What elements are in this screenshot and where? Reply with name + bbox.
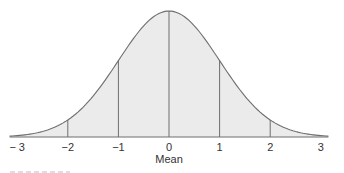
x-tick-label: −2	[62, 141, 75, 153]
cut-off-caption	[10, 168, 70, 173]
x-tick-label: − 3	[9, 141, 25, 153]
x-tick-label: 2	[267, 141, 273, 153]
x-axis-title: Mean	[155, 153, 183, 165]
normal-distribution-chart: − 3−2−10123 Mean	[0, 0, 344, 173]
x-tick-labels: − 3−2−10123	[9, 141, 323, 153]
x-tick-label: 1	[217, 141, 223, 153]
x-tick-label: 0	[166, 141, 172, 153]
x-tick-label: −1	[112, 141, 125, 153]
x-tick-label: 3	[318, 141, 324, 153]
